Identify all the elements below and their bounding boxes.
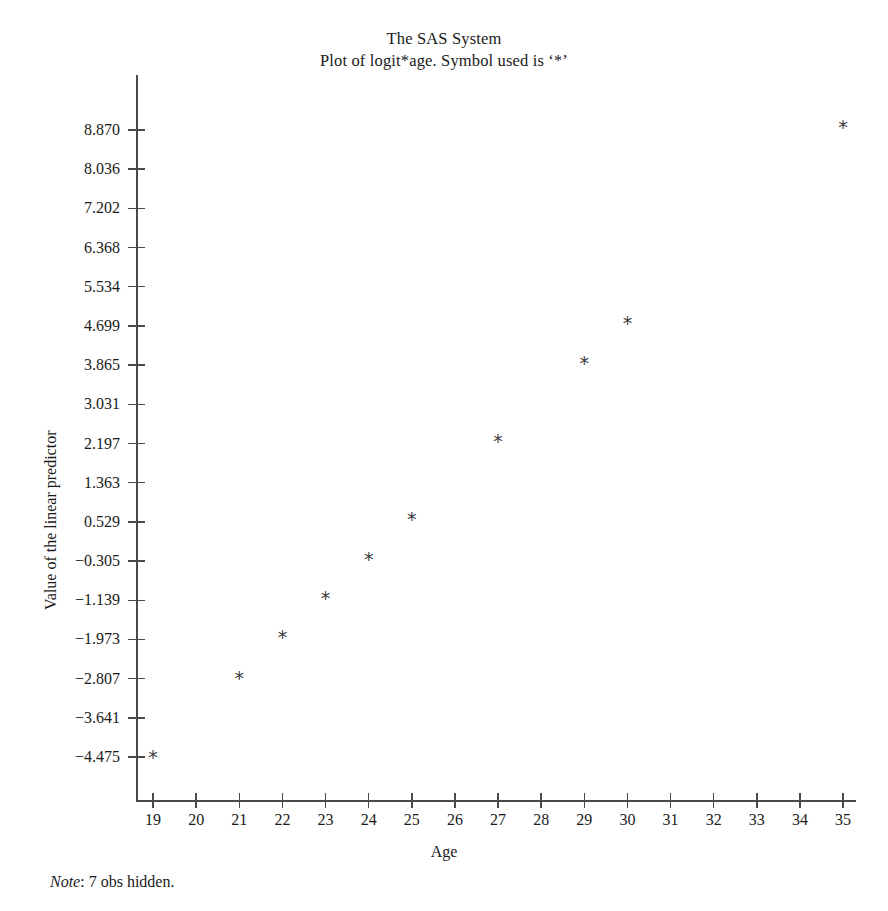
y-tick-mark xyxy=(128,443,145,445)
x-tick-label: 32 xyxy=(694,812,734,828)
x-tick-label: 28 xyxy=(521,812,561,828)
x-tick-mark xyxy=(670,793,672,808)
y-tick-mark xyxy=(128,521,145,523)
x-tick-mark xyxy=(411,793,413,808)
data-point-marker: * xyxy=(145,749,161,765)
x-tick-mark xyxy=(152,793,154,808)
x-tick-label: 31 xyxy=(651,812,691,828)
x-tick-mark xyxy=(239,793,241,808)
data-point-marker: * xyxy=(361,551,377,567)
plot-area: 8.8708.0367.2026.3685.5344.6993.8653.031… xyxy=(0,0,888,911)
y-tick-mark xyxy=(128,756,145,758)
x-tick-mark xyxy=(799,793,801,808)
y-tick-mark xyxy=(128,560,145,562)
x-tick-mark xyxy=(282,793,284,808)
footnote-text: 7 obs hidden. xyxy=(89,873,175,890)
x-tick-label: 23 xyxy=(306,812,346,828)
x-tick-mark xyxy=(584,793,586,808)
y-tick-label: −4.475 xyxy=(48,749,120,765)
footnote: Note: 7 obs hidden. xyxy=(50,873,174,891)
y-axis-title: Value of the linear predictor xyxy=(42,270,60,610)
y-tick-label: 8.870 xyxy=(48,122,120,138)
x-tick-mark xyxy=(756,793,758,808)
data-point-marker: * xyxy=(231,670,247,686)
data-point-marker: * xyxy=(404,511,420,527)
y-axis-line xyxy=(136,75,138,801)
x-tick-label: 33 xyxy=(737,812,777,828)
x-tick-mark xyxy=(325,793,327,808)
x-tick-label: 19 xyxy=(133,812,173,828)
x-tick-label: 27 xyxy=(478,812,518,828)
y-tick-label: −3.641 xyxy=(48,710,120,726)
x-tick-label: 29 xyxy=(564,812,604,828)
x-tick-mark xyxy=(368,793,370,808)
y-tick-mark xyxy=(128,678,145,680)
footnote-separator: : xyxy=(80,873,88,890)
y-tick-mark xyxy=(128,600,145,602)
data-point-marker: * xyxy=(576,355,592,371)
x-tick-mark xyxy=(842,793,844,808)
x-tick-mark xyxy=(454,793,456,808)
x-tick-label: 21 xyxy=(219,812,259,828)
y-tick-mark xyxy=(128,404,145,406)
x-tick-mark xyxy=(195,793,197,808)
x-tick-label: 30 xyxy=(607,812,647,828)
x-tick-mark xyxy=(540,793,542,808)
sas-scatter-plot-figure: The SAS System Plot of logit*age. Symbol… xyxy=(0,0,888,911)
data-point-marker: * xyxy=(619,315,635,331)
y-tick-mark xyxy=(128,717,145,719)
data-point-marker: * xyxy=(274,629,290,645)
x-tick-mark xyxy=(627,793,629,808)
y-tick-mark xyxy=(128,129,145,131)
x-tick-label: 26 xyxy=(435,812,475,828)
x-tick-label: 24 xyxy=(349,812,389,828)
y-tick-label: −2.807 xyxy=(48,671,120,687)
x-axis-title: Age xyxy=(0,843,888,861)
y-tick-label: 8.036 xyxy=(48,161,120,177)
x-tick-label: 20 xyxy=(176,812,216,828)
y-tick-label: 6.368 xyxy=(48,240,120,256)
y-tick-mark xyxy=(128,247,145,249)
data-point-marker: * xyxy=(318,590,334,606)
x-tick-label: 22 xyxy=(262,812,302,828)
x-tick-label: 34 xyxy=(780,812,820,828)
y-tick-label: 7.202 xyxy=(48,200,120,216)
y-tick-mark xyxy=(128,482,145,484)
x-axis-line xyxy=(136,800,856,802)
y-tick-mark xyxy=(128,639,145,641)
y-tick-mark xyxy=(128,364,145,366)
x-tick-mark xyxy=(497,793,499,808)
footnote-label: Note xyxy=(50,873,80,890)
x-tick-mark xyxy=(713,793,715,808)
y-tick-mark xyxy=(128,325,145,327)
x-tick-label: 35 xyxy=(823,812,863,828)
data-point-marker: * xyxy=(835,119,851,135)
data-point-marker: * xyxy=(490,433,506,449)
y-tick-mark xyxy=(128,208,145,210)
y-tick-label: −1.973 xyxy=(48,631,120,647)
y-tick-mark xyxy=(128,168,145,170)
x-tick-label: 25 xyxy=(392,812,432,828)
y-tick-mark xyxy=(128,286,145,288)
